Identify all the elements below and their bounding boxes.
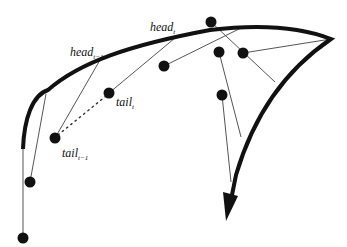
label-head-t-sub: t: [173, 28, 175, 36]
label-head-tm1-sub: t−1: [93, 53, 103, 61]
label-head-tm1-base: head: [70, 45, 93, 59]
dot: [206, 17, 217, 28]
dot: [238, 48, 249, 59]
diagram-svg: [0, 0, 347, 247]
dot: [18, 233, 29, 244]
dot-tail-t: [104, 88, 115, 99]
dot: [214, 47, 225, 58]
label-tail-t-base: tail: [116, 95, 132, 109]
connector: [222, 95, 231, 182]
dot: [217, 90, 228, 101]
arrowhead-icon: [223, 192, 238, 221]
diagram-canvas: headt headt−1 tailt tailt−1: [0, 0, 347, 247]
dot: [25, 177, 36, 188]
label-tail-tm1: tailt−1: [62, 147, 88, 162]
label-tail-t: tailt: [116, 96, 134, 111]
point-dots: [18, 17, 249, 244]
label-tail-t-sub: t: [132, 103, 134, 111]
dot-tail-tm1: [50, 133, 61, 144]
label-head-t-base: head: [150, 20, 173, 34]
dotted-tail-link: [58, 96, 106, 135]
label-head-t: headt: [150, 21, 175, 36]
dot: [159, 61, 170, 72]
label-tail-tm1-base: tail: [62, 146, 78, 160]
label-head-tm1: headt−1: [70, 46, 104, 61]
label-tail-tm1-sub: t−1: [78, 154, 88, 162]
